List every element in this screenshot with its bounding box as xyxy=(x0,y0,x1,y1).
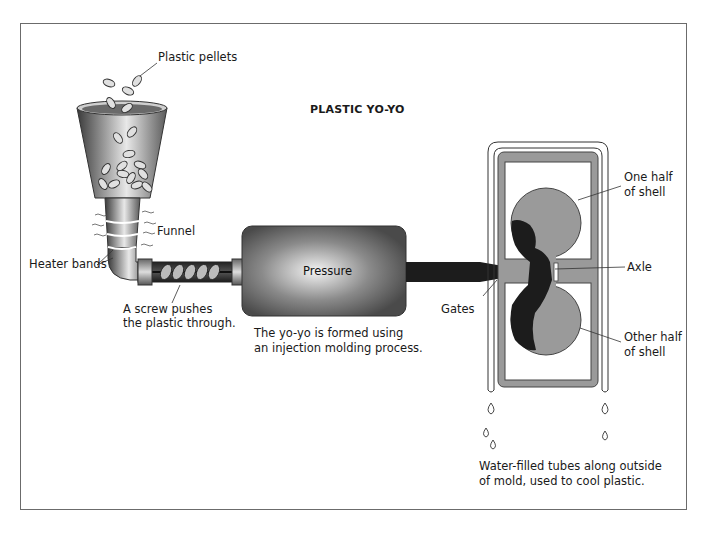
water-drop-icons xyxy=(484,403,609,449)
axle xyxy=(554,263,558,281)
label-plastic-pellets: Plastic pellets xyxy=(158,50,237,65)
label-process-line2: an injection molding process. xyxy=(254,341,423,356)
label-process-line1: The yo-yo is formed using xyxy=(254,326,403,341)
label-gates: Gates xyxy=(441,302,475,317)
label-heater-bands: Heater bands xyxy=(29,257,107,272)
label-axle: Axle xyxy=(627,260,652,275)
label-other-half-line2: of shell xyxy=(624,345,666,360)
label-water-line2: of mold, used to cool plastic. xyxy=(479,474,645,489)
label-other-half-line1: Other half xyxy=(624,330,682,345)
label-one-half-line1: One half xyxy=(624,170,673,185)
funnel-icon xyxy=(77,101,167,280)
label-one-half-line2: of shell xyxy=(624,185,666,200)
label-pressure: Pressure xyxy=(303,264,352,278)
diagram-title: PLASTIC YO-YO xyxy=(310,103,405,116)
label-screw-line1: A screw pushes xyxy=(123,302,212,317)
screw-barrel-icon xyxy=(138,259,244,285)
label-funnel: Funnel xyxy=(157,224,195,239)
label-water-line1: Water-filled tubes along outside xyxy=(479,459,662,474)
label-screw-line2: the plastic through. xyxy=(123,316,236,331)
